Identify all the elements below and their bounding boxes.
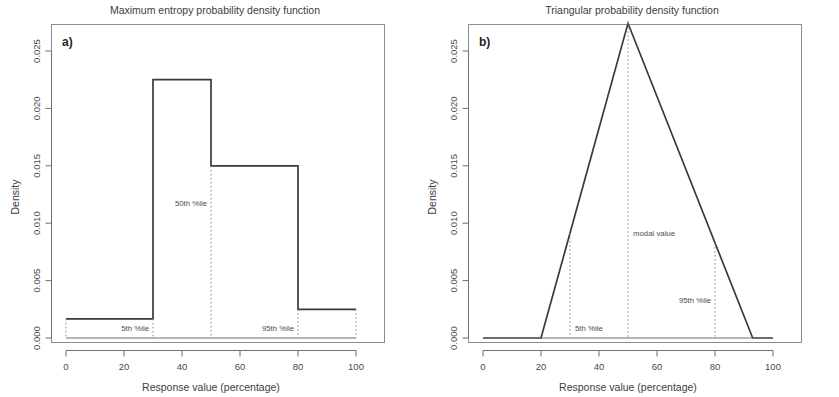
y-tick-label-1: 0.005 [31,269,42,293]
x-tick-label-1: 20 [119,361,130,372]
x-tick-label-5: 100 [348,361,364,372]
x-tick-label-3: 60 [651,361,662,372]
annotation-5th-percentile: 5th %ile [575,324,603,333]
panel-a-y-axis: 0.000 0.005 0.010 0.015 0.020 0.025 Dens… [9,39,52,350]
x-tick-label-1: 20 [535,361,546,372]
y-tick-label-4: 0.020 [31,97,42,121]
annotation-modal-value: modal value [633,229,675,238]
annotation-95th-percentile: 95th %ile [262,324,294,333]
panel-a-xlabel: Response value (percentage) [142,381,280,393]
x-tick-label-4: 80 [709,361,720,372]
panel-b-x-axis: 0 20 40 60 80 100 Response value (percen… [480,351,781,394]
panel-a-ylabel: Density [9,179,21,215]
x-tick-label-0: 0 [63,361,68,372]
annotation-50th-percentile: 50th %ile [175,199,207,208]
x-tick-label-2: 40 [593,361,604,372]
y-tick-label-2: 0.010 [31,211,42,235]
annotation-5th-percentile: 5th %ile [121,324,149,333]
panel-b-letter: b) [479,35,490,49]
panel-a: Maximum entropy probability density func… [0,0,420,397]
y-tick-label-5: 0.025 [448,39,459,63]
x-tick-label-4: 80 [293,361,304,372]
y-tick-label-1: 0.005 [448,269,459,293]
panel-b-ylabel: Density [426,179,438,215]
figure-container: Maximum entropy probability density func… [0,0,839,397]
y-tick-label-2: 0.010 [448,211,459,235]
panel-a-svg: Maximum entropy probability density func… [0,0,419,397]
panel-b-y-axis: 0.000 0.005 0.010 0.015 0.020 0.025 Dens… [426,39,469,350]
y-tick-label-5: 0.025 [31,39,42,63]
panel-b-title: Triangular probability density function [545,4,719,16]
annotation-95th-percentile: 95th %ile [678,296,710,305]
y-tick-label-4: 0.020 [448,97,459,121]
panel-b-xlabel: Response value (percentage) [559,381,697,393]
x-tick-label-3: 60 [235,361,246,372]
y-tick-label-3: 0.015 [448,154,459,178]
y-tick-label-3: 0.015 [31,154,42,178]
panel-a-frame [52,25,385,343]
panel-a-letter: a) [62,35,73,49]
panel-b-frame [468,25,801,343]
panel-b-svg: Triangular probability density function … [420,0,839,397]
panel-b: Triangular probability density function … [420,0,839,397]
panel-a-title: Maximum entropy probability density func… [110,4,320,16]
panel-a-x-axis: 0 20 40 60 80 100 Response value (percen… [63,351,364,394]
x-tick-label-5: 100 [765,361,781,372]
x-tick-label-2: 40 [177,361,188,372]
x-tick-label-0: 0 [480,361,485,372]
y-tick-label-0: 0.000 [31,326,42,350]
y-tick-label-0: 0.000 [448,326,459,350]
